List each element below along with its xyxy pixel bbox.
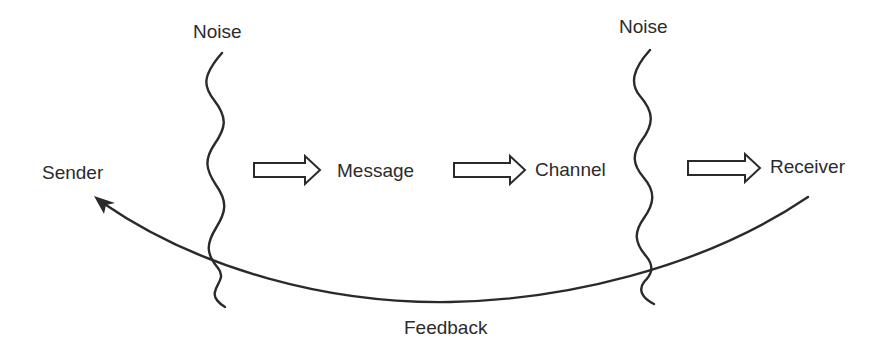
arrow-channel-receiver-icon [688, 154, 760, 182]
diagram-canvas [0, 0, 892, 349]
channel-label: Channel [535, 160, 606, 179]
feedback-arrowhead-icon [94, 196, 115, 214]
feedback-label: Feedback [404, 318, 487, 337]
message-label: Message [337, 161, 414, 180]
receiver-label: Receiver [770, 157, 845, 176]
noise-label-left: Noise [193, 22, 242, 41]
noise-wave-right [634, 50, 654, 304]
arrow-message-channel-icon [454, 156, 525, 184]
sender-label: Sender [42, 163, 103, 182]
noise-label-right: Noise [619, 17, 668, 36]
noise-wave-left [206, 53, 225, 307]
arrow-sender-message-icon [254, 156, 320, 184]
